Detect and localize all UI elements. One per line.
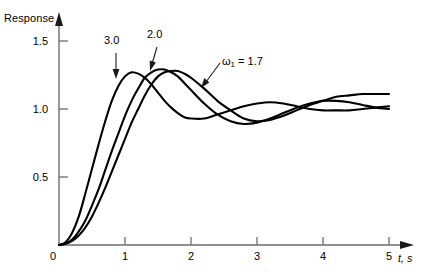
plot-canvas	[0, 0, 427, 275]
annotation-arrows	[113, 47, 220, 88]
omega-symbol: ω	[222, 55, 231, 67]
curve-label-3.0: 3.0	[104, 34, 119, 46]
x-axis	[59, 241, 414, 249]
response-chart-figure: Response t, s 0 0.5 1.0 1.5 1 2 3 4 5 3.…	[0, 0, 427, 275]
x-tick-label-1: 1	[118, 250, 132, 262]
y-tick-label-0.5: 0.5	[22, 171, 48, 183]
curve-label-omega1: ω1 = 1.7	[222, 55, 263, 69]
x-tick-label-5: 5	[382, 250, 396, 262]
x-axis-title: t, s	[398, 252, 412, 264]
x-tick-label-2: 2	[184, 250, 198, 262]
response-curves	[59, 69, 389, 245]
x-axis-ticks	[125, 237, 389, 245]
y-tick-label-1.0: 1.0	[22, 103, 48, 115]
curve-label-2.0: 2.0	[147, 28, 162, 40]
y-tick-label-1.5: 1.5	[22, 35, 48, 47]
omega-value: = 1.7	[235, 55, 263, 67]
y-axis-title: Response	[4, 12, 54, 24]
x-tick-label-4: 4	[316, 250, 330, 262]
y-axis-ticks	[59, 41, 68, 177]
x-tick-label-3: 3	[250, 250, 264, 262]
origin-tick-label: 0	[50, 250, 56, 262]
y-axis	[55, 12, 63, 245]
